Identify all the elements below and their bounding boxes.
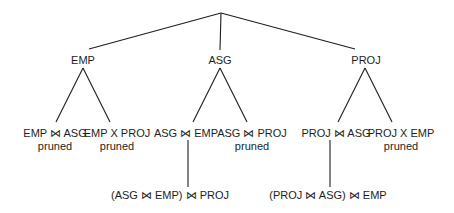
node-label: PROJ X EMP: [368, 127, 435, 140]
edge-asg-asgproj: [220, 68, 247, 122]
node-asg-join-emp: ASG ⋈ EMP: [154, 127, 218, 140]
node-label: EMP X PROJ: [84, 127, 150, 140]
node-label: PROJ ⋈ ASG: [301, 127, 370, 140]
edge-proj-projasg: [338, 68, 365, 122]
node-proj-join-asg: PROJ ⋈ ASG: [301, 127, 370, 140]
tree-edges: [0, 0, 454, 213]
edge-asg-asgemp: [193, 68, 220, 122]
pruned-status: pruned: [217, 140, 287, 153]
pruned-status: pruned: [23, 140, 86, 153]
join-order-search-tree: EMP ASG PROJ EMP ⋈ ASG pruned EMP X PROJ…: [0, 0, 454, 213]
node-proj: PROJ: [351, 54, 380, 67]
node-emp-join-asg: EMP ⋈ ASG pruned: [23, 127, 86, 153]
edge-root-asg: [220, 13, 221, 50]
node-label: ASG ⋈ PROJ: [217, 127, 287, 140]
pruned-status: pruned: [368, 140, 435, 153]
node-asg: ASG: [208, 54, 231, 67]
node-emp-cross-proj: EMP X PROJ pruned: [84, 127, 150, 153]
node-asgemp-join-proj: (ASG ⋈ EMP) ⋈ PROJ: [111, 189, 229, 202]
node-emp: EMP: [71, 54, 95, 67]
pruned-status: pruned: [84, 140, 150, 153]
edge-root-emp: [89, 13, 221, 49]
edge-proj-projxemp: [365, 68, 392, 122]
node-label: EMP ⋈ ASG: [23, 127, 86, 140]
node-asg-join-proj: ASG ⋈ PROJ pruned: [217, 127, 287, 153]
node-projasg-join-emp: (PROJ ⋈ ASG) ⋈ EMP: [269, 189, 386, 202]
edge-emp-empxproj: [83, 68, 110, 122]
node-label: ASG ⋈ EMP: [154, 127, 218, 140]
node-proj-cross-emp: PROJ X EMP pruned: [368, 127, 435, 153]
edge-emp-empasg: [56, 68, 83, 122]
edge-root-proj: [221, 13, 355, 49]
